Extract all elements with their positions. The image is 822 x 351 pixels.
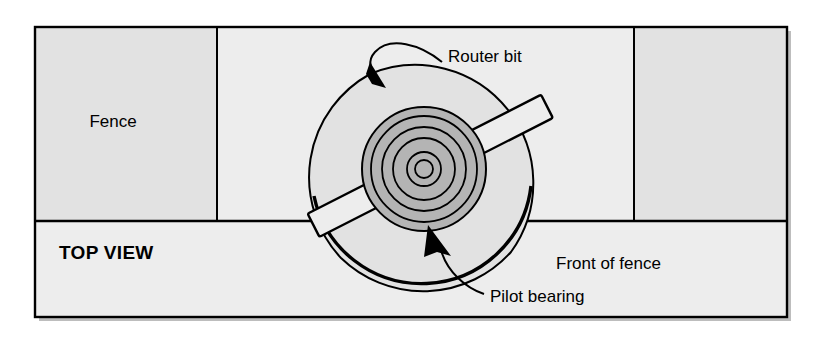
pilot-bearing-label: Pilot bearing [490,287,585,306]
router-bit-diagram: Fence TOP VIEW Router bit Pilot bearing … [0,0,822,351]
pilot-bearing-rings [362,107,486,231]
fence-block-right [634,27,787,221]
fence-label: Fence [89,112,136,131]
top-view-label: TOP VIEW [59,242,154,263]
router-bit-label: Router bit [448,47,522,66]
diagram-canvas: Fence TOP VIEW Router bit Pilot bearing … [0,0,822,351]
front-of-fence-label: Front of fence [556,254,661,273]
bearing-ring-center [415,160,433,178]
